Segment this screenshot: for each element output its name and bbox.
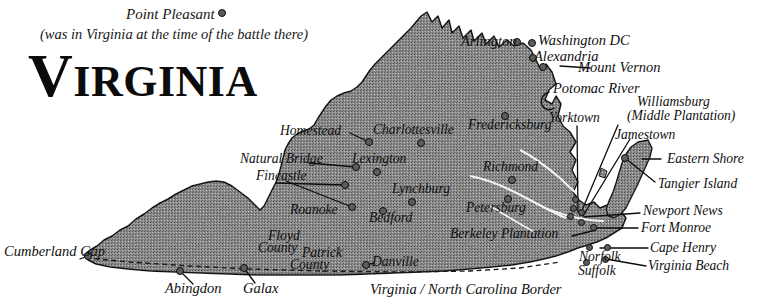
label-potomac-river: Potomac River (553, 81, 640, 96)
label-floyd-county: County (258, 241, 297, 255)
label-abingdon: Abingdon (165, 281, 221, 296)
label-roanoke: Roanoke (290, 203, 338, 217)
label-newport-news: Newport News (643, 204, 723, 218)
label-nc-border: Virginia / North Carolina Border (370, 282, 561, 297)
marker-abingdon[interactable] (176, 267, 184, 275)
label-charlottesville: Charlottesville (373, 123, 454, 137)
label-bedford: Bedford (369, 211, 412, 225)
bay-island-detail (599, 168, 607, 178)
point-pleasant-note-parenthetical: (was in Virginia at the time of the batt… (40, 26, 308, 43)
label-fredericksburg: Fredericksburg (468, 118, 552, 132)
marker-mount-vernon[interactable] (539, 63, 547, 71)
marker-danville[interactable] (362, 261, 370, 269)
marker-lynchburg[interactable] (408, 198, 416, 206)
marker-cluster-b[interactable] (570, 205, 577, 212)
marker-tangier-island[interactable] (621, 154, 629, 162)
point-pleasant-note-label: Point Pleasant (126, 6, 215, 23)
label-patrick-county: County (290, 258, 329, 272)
label-suffolk: Suffolk (578, 264, 616, 278)
label-tangier-island: Tangier Island (658, 177, 737, 191)
title-rest: IRGINIA (73, 57, 257, 106)
marker-fincastle[interactable] (341, 181, 349, 189)
marker-newport-news[interactable] (578, 209, 585, 216)
marker-point-pleasant[interactable] (218, 9, 226, 17)
marker-lexington[interactable] (373, 168, 381, 176)
marker-fort-monroe[interactable] (590, 224, 597, 231)
title-initial: V (28, 41, 73, 109)
label-berkeley-plantation: Berkeley Plantation (450, 227, 558, 241)
marker-charlottesville[interactable] (417, 139, 425, 147)
virginia-map: Point Pleasant (was in Virginia at the t… (0, 0, 765, 304)
marker-hampton[interactable] (578, 219, 585, 226)
label-danville: Danville (372, 255, 419, 269)
label-cape-henry: Cape Henry (650, 241, 716, 255)
label-lexington: Lexington (352, 152, 406, 166)
marker-richmond[interactable] (508, 176, 516, 184)
marker-cluster-a[interactable] (572, 196, 579, 203)
marker-homestead[interactable] (365, 138, 373, 146)
label-richmond: Richmond (483, 160, 538, 174)
label-williamsburg: Williamsburg (637, 95, 710, 109)
label-norfolk: Norfolk (579, 250, 621, 264)
marker-roanoke[interactable] (348, 203, 356, 211)
label-petersburg: Petersburg (466, 201, 526, 215)
label-jamestown: Jamestown (615, 128, 675, 142)
label-arlington: Arlington (461, 34, 517, 49)
label-homestead: Homestead (280, 124, 341, 138)
label-mount-vernon: Mount Vernon (578, 60, 661, 75)
label-fincastle: Fincastle (256, 169, 307, 183)
label-virginia-beach: Virginia Beach (648, 259, 729, 273)
marker-cluster-c[interactable] (567, 213, 574, 220)
label-washington-dc: Washington DC (538, 33, 630, 48)
label-middle-plantation: (Middle Plantation) (627, 109, 735, 123)
label-cumberland-gap: Cumberland Gap (4, 244, 105, 259)
label-lynchburg: Lynchburg (392, 182, 450, 196)
label-yorktown: Yorktown (549, 111, 600, 125)
page-title: VIRGINIA (28, 44, 258, 106)
marker-galax[interactable] (240, 264, 248, 272)
label-fort-monroe: Fort Monroe (641, 221, 711, 235)
label-natural-bridge: Natural Bridge (240, 152, 323, 166)
marker-washington-dc[interactable] (528, 39, 536, 47)
label-galax: Galax (243, 281, 278, 296)
label-eastern-shore: Eastern Shore (667, 152, 744, 166)
